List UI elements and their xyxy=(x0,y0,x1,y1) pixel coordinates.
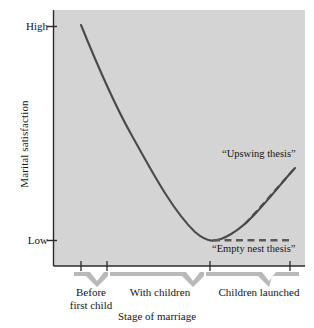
y-tick-label-high: High xyxy=(4,20,48,32)
annotation-upswing-thesis: “Upswing thesis” xyxy=(222,148,296,159)
x-axis-title: Stage of marriage xyxy=(0,310,314,322)
y-tick-label-low: Low xyxy=(4,234,48,246)
stage-label-line1: Before xyxy=(76,286,106,298)
annotation-empty-nest-thesis: “Empty nest thesis” xyxy=(212,243,295,254)
bracket-band-children-launched xyxy=(206,272,299,287)
stage-label-children-launched: Children launched xyxy=(205,286,313,299)
stage-label-line1: Children launched xyxy=(219,286,300,298)
stage-label-line1: With children xyxy=(130,286,190,298)
stage-label-with-children: With children xyxy=(110,286,210,299)
bracket-band-before-first-child xyxy=(74,272,108,287)
marital-satisfaction-figure: Marital satisfaction High Low “Upswing t… xyxy=(0,0,314,328)
bracket-band-with-children xyxy=(110,272,204,287)
chart-canvas xyxy=(0,0,314,328)
stage-bracket-group xyxy=(74,272,299,287)
y-axis-title: Marital satisfaction xyxy=(18,54,30,234)
